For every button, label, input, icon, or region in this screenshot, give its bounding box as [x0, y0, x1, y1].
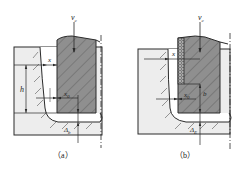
caption-b: （b）	[175, 151, 195, 160]
wear-strip-b	[178, 38, 184, 84]
panel-b: vc x x0 b ΔE （b）	[138, 13, 231, 160]
caption-a: （a）	[53, 151, 73, 160]
h-label: h	[20, 85, 24, 94]
b-label: b	[203, 90, 207, 98]
panel-a: vc x h x0 Δb （a）	[14, 13, 102, 160]
diagram-canvas: vc x h x0 Δb （a）	[0, 0, 241, 172]
cutting-tool-a	[57, 36, 96, 113]
svg-text:vc: vc	[198, 13, 205, 23]
svg-text:vc: vc	[71, 13, 78, 23]
